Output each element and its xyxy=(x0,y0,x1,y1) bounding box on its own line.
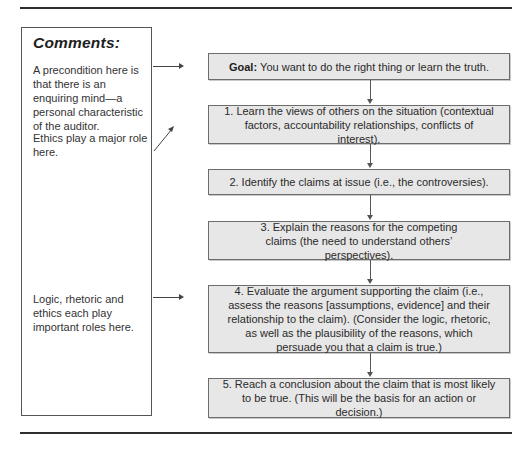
arrowhead-down-icon xyxy=(367,163,373,168)
arrowhead-right-icon xyxy=(179,294,184,300)
comment-arrow-step4 xyxy=(153,297,180,298)
step-2-text: 2. Identify the claims at issue (i.e., t… xyxy=(229,175,488,189)
step-5-box: 5. Reach a conclusion about the claim th… xyxy=(208,378,510,418)
step-3-box: 3. Explain the reasons for the competing… xyxy=(208,221,510,260)
step-5-text: 5. Reach a conclusion about the claim th… xyxy=(217,377,501,419)
connector-line xyxy=(370,80,371,100)
bottom-rule xyxy=(20,432,512,434)
connector-line xyxy=(370,260,371,280)
connector-line xyxy=(370,144,371,164)
goal-text: You want to do the right thing or learn … xyxy=(260,60,489,74)
step-1-box: 1. Learn the views of others on the situ… xyxy=(208,105,510,144)
goal-label: Goal: xyxy=(229,60,257,74)
step-3-text: 3. Explain the reasons for the competing… xyxy=(257,220,461,262)
step-4-box: 4. Evaluate the argument supporting the … xyxy=(208,285,510,353)
step-1-text: 1. Learn the views of others on the situ… xyxy=(223,104,495,146)
goal-box: Goal: You want to do the right thing or … xyxy=(208,53,510,80)
step-2-box: 2. Identify the claims at issue (i.e., t… xyxy=(208,169,510,195)
connector-line xyxy=(370,353,371,373)
connector-line xyxy=(370,195,371,216)
step-4-text: 4. Evaluate the argument supporting the … xyxy=(225,284,493,354)
